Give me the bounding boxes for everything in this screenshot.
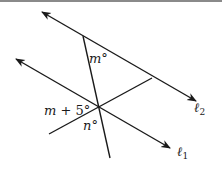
angle-label-m: m°: [89, 52, 108, 65]
line-label-l1: ℓ1: [177, 145, 188, 161]
angle-label-m-plus-5: m + 5°: [44, 104, 90, 117]
geometry-figure: m° m + 5° n° ℓ2 ℓ1: [0, 0, 222, 171]
diagram-canvas: [0, 0, 222, 171]
line-label-l2: ℓ2: [194, 101, 205, 117]
angle-label-n: n°: [83, 119, 98, 132]
